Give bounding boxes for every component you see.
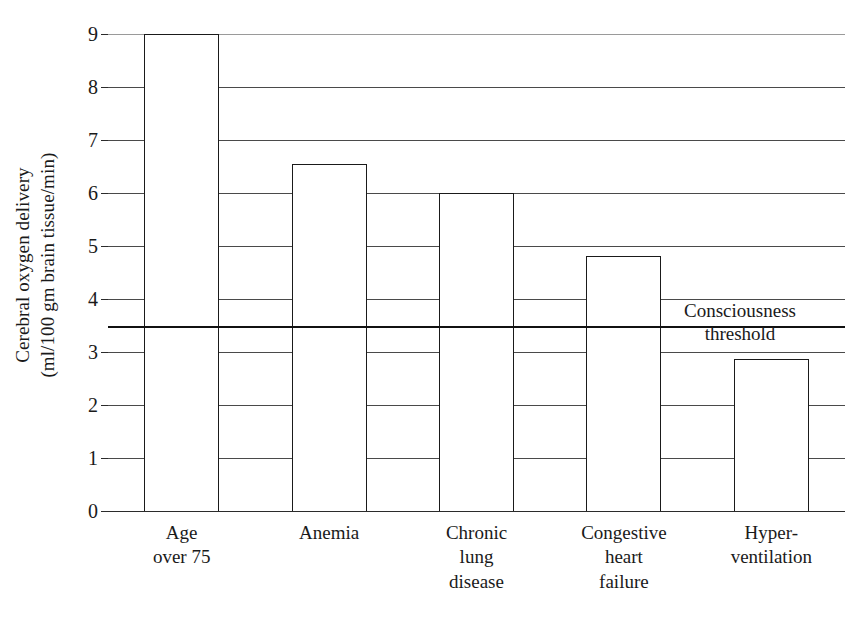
y-tick-label-0: 0 xyxy=(64,500,98,523)
y-tick-label-3: 3 xyxy=(64,341,98,364)
y-tick-label-8: 8 xyxy=(64,76,98,99)
bar-chart-figure: Cerebral oxygen delivery (ml/100 gm brai… xyxy=(0,0,864,620)
y-tick-mark xyxy=(101,458,108,459)
bar xyxy=(144,34,219,511)
y-tick-label-4: 4 xyxy=(64,288,98,311)
y-tick-label-1: 1 xyxy=(64,447,98,470)
y-tick-mark xyxy=(101,246,108,247)
y-tick-mark xyxy=(101,87,108,88)
x-category-label-line: over 75 xyxy=(82,545,282,569)
x-category-label-line: failure xyxy=(524,570,724,594)
y-tick-mark xyxy=(101,34,108,35)
y-tick-label-7: 7 xyxy=(64,129,98,152)
y-tick-label-5: 5 xyxy=(64,235,98,258)
y-tick-mark xyxy=(101,352,108,353)
y-tick-mark xyxy=(101,299,108,300)
consciousness-threshold-label: Consciousnessthreshold xyxy=(645,299,835,347)
axis-baseline xyxy=(108,511,845,512)
y-tick-label-2: 2 xyxy=(64,394,98,417)
y-axis-title-line-2: (ml/100 gm brain tissue/min) xyxy=(35,153,60,378)
y-tick-label-6: 6 xyxy=(64,182,98,205)
bar xyxy=(292,164,367,511)
bar xyxy=(586,256,661,511)
x-category-label: Hyper-ventilation xyxy=(671,521,864,570)
x-category-label-line: ventilation xyxy=(671,545,864,569)
x-category-label-line: Hyper- xyxy=(671,521,864,545)
y-tick-mark xyxy=(101,405,108,406)
bar xyxy=(734,359,809,511)
y-tick-mark xyxy=(101,193,108,194)
y-tick-mark xyxy=(101,140,108,141)
consciousness-threshold-label-line: Consciousness xyxy=(645,299,835,323)
bar xyxy=(439,193,514,511)
y-tick-label-9: 9 xyxy=(64,23,98,46)
y-tick-mark xyxy=(101,511,108,512)
consciousness-threshold-label-line: threshold xyxy=(645,322,835,346)
y-axis-title-line-1: Cerebral oxygen delivery xyxy=(10,153,35,378)
y-axis-title: Cerebral oxygen delivery (ml/100 gm brai… xyxy=(0,0,70,530)
plot-area xyxy=(108,34,845,511)
